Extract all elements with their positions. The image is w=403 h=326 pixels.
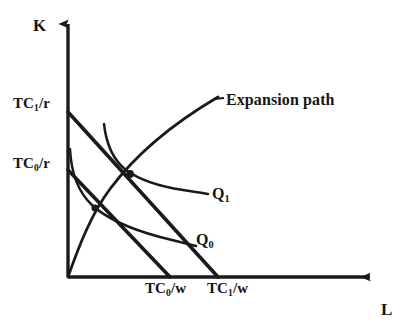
leader-line-group	[214, 98, 224, 99]
q0-base: Q	[196, 231, 209, 248]
tangency-point-q1	[126, 170, 134, 178]
tc1r-denom: /r	[39, 95, 50, 111]
isoquant-group	[70, 124, 208, 246]
tc1r-sub: 1	[34, 102, 39, 113]
isoquant-curve-q1	[104, 124, 208, 194]
y-intercept-label-high: TC1/r	[13, 96, 50, 111]
axis-label-capital: K	[33, 17, 46, 34]
tc1w-denom: /w	[233, 280, 248, 296]
tc1r-base: TC	[13, 95, 34, 111]
leader-line-expansion-path	[214, 98, 224, 99]
tc0r-base: TC	[13, 155, 34, 171]
tc0w-denom: /w	[171, 280, 186, 296]
isoquant-label-high: Q1	[212, 186, 230, 202]
axis-label-labor: L	[381, 301, 392, 318]
tc0r-sub: 0	[34, 162, 39, 173]
tc1w-base: TC	[207, 280, 228, 296]
tangency-point-q0	[91, 204, 98, 211]
tc0r-denom: /r	[39, 155, 50, 171]
q0-sub: 0	[209, 239, 214, 250]
isoquant-label-low: Q0	[196, 232, 214, 248]
axis-group	[68, 24, 370, 277]
x-intercept-label-high: TC1/w	[207, 281, 248, 296]
x-intercept-label-low: TC0/w	[145, 281, 186, 296]
expansion-path-label: Expansion path	[226, 92, 335, 108]
y-intercept-label-low: TC0/r	[13, 156, 50, 171]
q1-base: Q	[212, 185, 225, 202]
tc0w-base: TC	[145, 280, 166, 296]
isocost-group	[68, 112, 218, 277]
economics-diagram	[0, 0, 403, 326]
tc1w-sub: 1	[228, 287, 233, 298]
tc0w-sub: 0	[166, 287, 171, 298]
q1-sub: 1	[225, 193, 230, 204]
